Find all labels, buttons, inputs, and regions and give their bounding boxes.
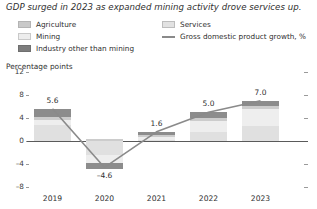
legend-swatch-mining [18, 33, 31, 40]
gdp-growth-line [0, 72, 317, 187]
x-tick-label-2021: 2021 [135, 194, 179, 203]
x-tick-label-2019: 2019 [31, 194, 75, 203]
legend-swatch-industry [18, 45, 31, 52]
legend-swatch-services [162, 21, 175, 28]
legend-label-mining: Mining [36, 32, 60, 41]
legend-label-industry: Industry other than mining [36, 44, 134, 53]
chart-title: GDP surged in 2023 as expanded mining ac… [6, 2, 314, 13]
legend-swatch-agriculture [18, 21, 31, 28]
y-tick-mark [26, 187, 29, 188]
legend-item-agriculture: Agriculture [18, 20, 76, 29]
x-tick-label-2020: 2020 [83, 194, 127, 203]
legend-item-services: Services [162, 20, 211, 29]
x-tick-label-2022: 2022 [187, 194, 231, 203]
legend-label-services: Services [180, 20, 211, 29]
chart-legend: Agriculture Mining Industry other than m… [18, 20, 313, 56]
legend-item-industry: Industry other than mining [18, 44, 134, 53]
y-tick-mark-right [304, 187, 308, 188]
legend-item-gdp-growth: Gross domestic product growth, % [162, 32, 306, 41]
legend-item-mining: Mining [18, 32, 60, 41]
legend-label-gdp-growth: Gross domestic product growth, % [180, 32, 306, 41]
legend-swatch-line-gdp [162, 33, 175, 40]
chart-container: GDP surged in 2023 as expanded mining ac… [0, 0, 317, 209]
legend-label-agriculture: Agriculture [36, 20, 76, 29]
x-tick-label-2023: 2023 [239, 194, 283, 203]
plot-area: 12840–4–85.6–4.61.65.07.0 [0, 72, 317, 187]
